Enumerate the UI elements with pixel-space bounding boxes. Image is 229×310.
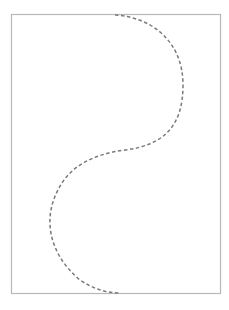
s-curve-path — [50, 15, 183, 293]
frame-rectangle — [12, 15, 221, 294]
diagram-canvas — [0, 0, 229, 310]
